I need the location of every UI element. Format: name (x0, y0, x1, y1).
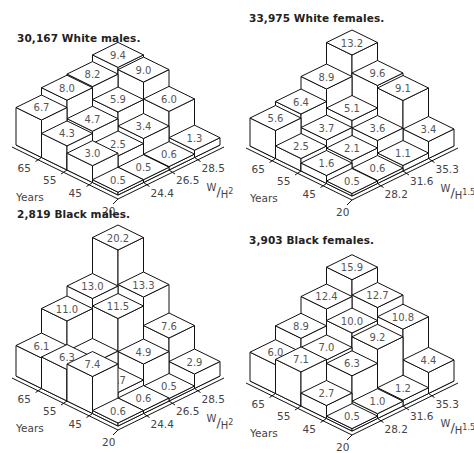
bar-value-label: 7.4 (85, 359, 101, 370)
bar-value-label: 8.9 (319, 72, 335, 83)
bar-value-label: 6.3 (344, 358, 360, 369)
bar3d-plot: 9.49.08.26.05.98.01.33.44.76.70.62.54.30… (0, 0, 237, 226)
bmi-tick-label: 28.2 (385, 188, 408, 200)
bar-value-label: 2.5 (293, 141, 309, 152)
bar-value-label: 2.7 (319, 388, 335, 399)
bar-value-label: 9.0 (136, 65, 152, 76)
bar-value-label: 4.7 (85, 114, 101, 125)
bar-value-label: 0.6 (136, 393, 152, 404)
bar-value-label: 9.2 (370, 332, 386, 343)
bar-value-label: 0.5 (110, 175, 126, 186)
bar-value-label: 4.3 (59, 128, 75, 139)
bar-value-label: 2.1 (344, 143, 360, 154)
age-tick-label: 55 (277, 175, 290, 187)
bar-value-label: 2.9 (187, 357, 203, 368)
bar-value-label: 10.0 (341, 316, 363, 327)
age-tick-label: 55 (43, 174, 56, 186)
bar-value-label: 1.0 (370, 396, 386, 407)
bmi-tick-label: 26.5 (176, 174, 199, 186)
bars: 15.912.712.410.810.08.94.49.27.06.01.26.… (250, 255, 454, 431)
bmi-tick-label: 28.5 (202, 162, 225, 174)
bar-value-label: 1.2 (395, 383, 411, 394)
bmi-tick-label: 35.3 (436, 398, 459, 410)
bmi-tick-label: 31.6 (410, 175, 434, 187)
bar-value-label: 12.7 (366, 290, 388, 301)
age-tick-label: 20 (102, 436, 115, 448)
bar-value-label: 1.1 (395, 148, 411, 159)
bar-value-label: 0.5 (161, 381, 177, 392)
bar-value-label: 13.3 (132, 280, 154, 291)
bmi-tick-label: 28.5 (202, 393, 225, 405)
age-tick-label: 20 (336, 206, 349, 218)
age-tick-label: 45 (303, 423, 316, 435)
chart-white-males: 30,167 White males. 9.49.08.26.05.98.01.… (0, 0, 237, 226)
chart-black-males: 2,819 Black males. 20.213.313.07.611.511… (0, 226, 237, 452)
bar-value-label: 8.0 (59, 83, 75, 94)
age-tick-label: 55 (277, 410, 290, 422)
bar3d-plot: 13.29.68.99.15.16.43.43.63.75.61.12.12.5… (237, 0, 474, 226)
age-tick-label: 20 (336, 441, 349, 453)
bar-value-label: 3.0 (85, 148, 101, 159)
years-axis-label: Years (15, 191, 44, 203)
bar-value-label: 9.6 (370, 68, 386, 79)
bar-value-label: 13.2 (341, 38, 363, 49)
bar-value-label: 3.4 (421, 124, 437, 135)
bar-value-label: 4.4 (421, 355, 437, 366)
bars: 9.49.08.26.05.98.01.33.44.76.70.62.54.30… (16, 42, 220, 195)
bar-value-label: 1.3 (187, 133, 203, 144)
bmi-tick-label: 28.2 (385, 423, 408, 435)
bar3d-plot: 20.213.313.07.611.511.02.94.96.10.51.76.… (0, 226, 237, 452)
bar-value-label: 9.1 (395, 83, 411, 94)
chart-title: 2,819 Black males. (17, 208, 130, 220)
bmi-axis-label: W/H2 (207, 182, 234, 200)
bar-value-label: 0.6 (370, 163, 386, 174)
bar-value-label: 6.4 (293, 97, 309, 108)
bar-value-label: 2.5 (110, 139, 126, 150)
bar-value-label: 3.6 (370, 123, 386, 134)
age-tick-label: 55 (43, 405, 56, 417)
age-tick-label: 45 (303, 188, 316, 200)
bar-value-label: 13.0 (81, 281, 103, 292)
bar-value-label: 4.9 (136, 347, 152, 358)
bar-value-label: 1.6 (319, 158, 335, 169)
bar-value-label: 0.6 (110, 406, 126, 417)
bmi-axis-label: W/H1.5 (441, 418, 474, 436)
bar-value-label: 6.1 (34, 341, 50, 352)
age-tick-label: 45 (69, 187, 82, 199)
bar-value-label: 11.5 (107, 301, 129, 312)
bar-value-label: 5.1 (344, 103, 360, 114)
bmi-tick-label: 35.3 (436, 163, 459, 175)
bar-value-label: 8.9 (293, 321, 309, 332)
bmi-tick-label: 31.6 (410, 410, 434, 422)
age-tick-label: 45 (69, 418, 82, 430)
bars: 20.213.313.07.611.511.02.94.96.10.51.76.… (16, 225, 220, 426)
years-axis-label: Years (15, 422, 44, 434)
years-axis-label: Years (249, 192, 278, 204)
bar-value-label: 7.0 (319, 342, 335, 353)
bars: 13.29.68.99.15.16.43.43.63.75.61.12.12.5… (250, 30, 454, 196)
bar3d-plot: 15.912.712.410.810.08.94.49.27.06.01.26.… (237, 226, 474, 452)
chart-white-females: 33,975 White females. 13.29.68.99.15.16.… (237, 0, 474, 226)
bar-value-label: 9.4 (110, 50, 126, 61)
bar-value-label: 10.8 (392, 312, 414, 323)
years-axis-label: Years (249, 427, 278, 439)
bmi-tick-label: 26.5 (176, 405, 199, 417)
bar-value-label: 6.7 (34, 102, 50, 113)
bar-value-label: 12.4 (315, 291, 337, 302)
bar-value-label: 6.0 (161, 94, 177, 105)
chart-black-females: 3,903 Black females. 15.912.712.410.810.… (237, 226, 474, 452)
bar-value-label: 5.9 (110, 94, 126, 105)
age-tick-label: 65 (252, 163, 265, 175)
bar-value-label: 7.6 (161, 321, 177, 332)
age-tick-label: 65 (18, 393, 31, 405)
bar-value-label: 3.7 (319, 123, 335, 134)
bar-value-label: 8.2 (85, 69, 101, 80)
age-tick-label: 65 (252, 398, 265, 410)
bmi-axis-label: W/H1.5 (441, 183, 474, 201)
bmi-tick-label: 24.4 (151, 187, 175, 199)
bar-value-label: 0.5 (344, 176, 360, 187)
bmi-tick-label: 24.4 (151, 418, 175, 430)
bar-value-label: 0.5 (344, 411, 360, 422)
age-tick-label: 65 (18, 162, 31, 174)
bmi-axis-label: W/H2 (207, 413, 234, 431)
